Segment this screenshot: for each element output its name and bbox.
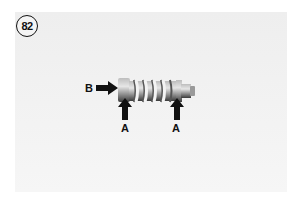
arrow-up-icon [118,98,132,120]
figure-number: 82 [21,20,32,32]
label-a-right: A [172,122,180,134]
arrow-up-icon [170,98,184,120]
figure-number-badge: 82 [16,15,38,37]
arrow-right-icon [96,81,118,95]
label-b: B [85,82,93,94]
label-a-left: A [121,122,129,134]
